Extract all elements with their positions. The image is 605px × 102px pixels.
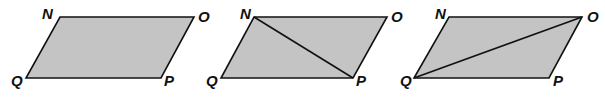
- figure-3: N O P Q: [400, 5, 599, 89]
- label-q-1: Q: [11, 72, 23, 89]
- label-n-2: N: [240, 5, 252, 22]
- figure-2: N O P Q: [206, 5, 403, 89]
- diagram-canvas: N O P Q N O P Q N O P Q: [0, 0, 605, 102]
- label-p-3: P: [553, 72, 564, 89]
- label-p-1: P: [164, 72, 175, 89]
- label-o-2: O: [391, 8, 403, 25]
- label-q-2: Q: [206, 72, 218, 89]
- label-o-3: O: [587, 8, 599, 25]
- label-p-2: P: [356, 72, 367, 89]
- label-o-1: O: [198, 8, 210, 25]
- label-n-1: N: [42, 5, 54, 22]
- label-q-3: Q: [400, 72, 412, 89]
- label-n-3: N: [435, 5, 447, 22]
- parallelogram-1: [26, 17, 194, 78]
- figure-1: N O P Q: [11, 5, 210, 89]
